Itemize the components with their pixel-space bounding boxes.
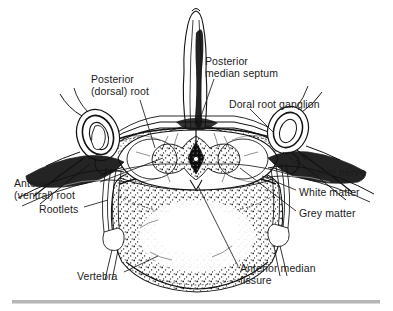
label-anterior-ventral-root: Anterior (ventral) root (14, 177, 75, 201)
spinal-cord-cross-section-figure (0, 0, 393, 311)
footer-rule (12, 300, 380, 304)
left-dorsal-root-ganglion (46, 88, 126, 166)
label-doral-root-ganglion: Doral root ganglion (229, 98, 320, 110)
label-white-matter: White matter (299, 186, 360, 198)
leader-rootlets (84, 200, 108, 207)
figure-artwork (0, 0, 393, 311)
label-posterior-median-septum: Posterior median septum (205, 55, 278, 79)
label-anterior-median-fissure: Anterior median fissure (240, 262, 316, 286)
label-grey-matter: Grey matter (299, 207, 356, 219)
spinal-cord (118, 130, 278, 190)
central-canal (193, 156, 198, 161)
label-spinal-nerve: Spinal nerve (306, 166, 366, 178)
label-rootlets: Rootlets (39, 203, 78, 215)
label-posterior-dorsal-root: Posterior (dorsal) root (91, 73, 149, 97)
label-vertebra: Vertebra (77, 270, 118, 282)
